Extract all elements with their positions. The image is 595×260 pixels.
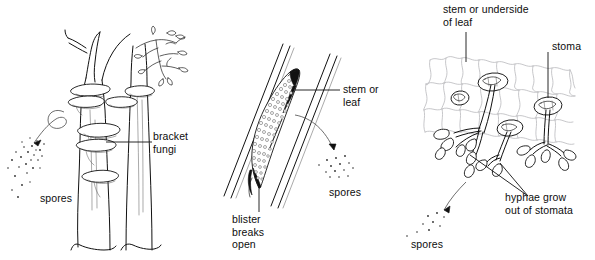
stoma-1 (477, 71, 509, 92)
label-spores-right: spores (411, 238, 443, 251)
label-spores-middle: spores (329, 186, 361, 199)
label-blister-breaks-open: blister breaks open (232, 213, 264, 251)
leafy-branch (134, 26, 188, 86)
bracket-fungus-7 (125, 86, 154, 97)
label-hyphae-grow-out-of-stomata: hyphae grow out of stomata (505, 191, 573, 216)
hyphae-leader-a (470, 155, 528, 196)
label-stem-or-leaf: stem or leaf (343, 83, 379, 108)
spore-cloud-middle (318, 155, 354, 178)
label-spores-left: spores (40, 192, 72, 205)
label-stem-or-underside-of-leaf: stem or underside of leaf (443, 3, 529, 28)
spore-cloud-left (7, 137, 45, 198)
label-bracket-fungi: bracket fungi (153, 130, 188, 155)
spore-release-arrow-right (444, 182, 466, 210)
bracket-fungus-3 (106, 97, 137, 108)
spore-cloud-right (406, 212, 445, 237)
spore-release-arrow-left (34, 110, 66, 143)
spore-release-arrow-middle (295, 115, 334, 150)
bracket-fungus-2 (68, 96, 104, 115)
stem-outline (224, 44, 341, 208)
fungal-spore-dispersal-figure: bracket fungi spores stem or leaf spores… (0, 0, 595, 260)
bracket-fungus-6 (82, 170, 119, 197)
stoma-spare (450, 90, 470, 106)
label-stoma: stoma (552, 40, 581, 53)
figure-artwork (0, 0, 595, 260)
